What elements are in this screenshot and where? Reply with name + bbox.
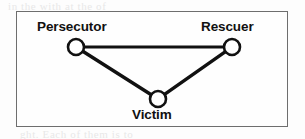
node-label-rescuer: Rescuer: [201, 19, 254, 34]
node-circle-rescuer[interactable]: [224, 39, 240, 55]
node-layer: [68, 39, 240, 107]
node-circle-victim[interactable]: [150, 91, 166, 107]
node-label-victim: Victim: [132, 107, 172, 122]
figure-page: in the with at the of an will as it a to…: [0, 0, 305, 139]
node-circle-persecutor[interactable]: [68, 39, 84, 55]
edge-layer: [83, 47, 226, 95]
edge-rescuer-victim: [165, 52, 226, 95]
edge-persecutor-victim: [83, 51, 151, 94]
node-label-persecutor: Persecutor: [37, 19, 107, 34]
